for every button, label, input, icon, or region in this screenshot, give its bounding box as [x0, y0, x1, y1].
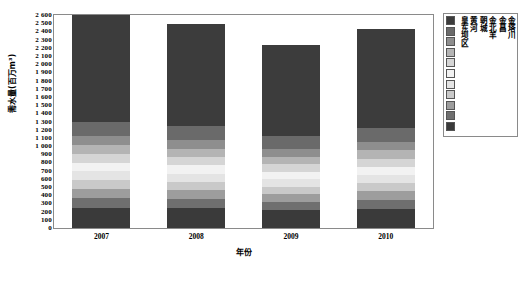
y-axis-tick: 2 300 — [35, 36, 52, 43]
bar-segment[interactable] — [262, 164, 320, 171]
legend-swatch — [446, 58, 455, 67]
y-axis-title: 需水量(百万m³) — [6, 45, 17, 123]
y-axis-tick: 1 600 — [35, 93, 52, 100]
x-axis-tick-labels: 2007200820092010 — [54, 232, 433, 244]
y-axis-tick: 1 700 — [35, 85, 52, 92]
bar-segment[interactable] — [262, 136, 320, 148]
bar-segment[interactable] — [72, 122, 130, 136]
bar-segment[interactable] — [167, 199, 225, 208]
legend-label-column: 其他合计杂木西营泉山清河金塔川金昌金北羊朝城黄河皇东坝区 — [459, 16, 516, 135]
bar-segment[interactable] — [167, 190, 225, 199]
y-axis-tick: 1 500 — [35, 102, 52, 109]
bar-segment[interactable] — [72, 198, 130, 208]
bar-segment[interactable] — [357, 183, 415, 191]
y-axis-tick: 800 — [41, 159, 52, 166]
legend-swatch — [446, 16, 455, 25]
bar-segment[interactable] — [262, 194, 320, 202]
y-axis-tick: 2 400 — [35, 28, 52, 35]
x-axis-tick: 2007 — [94, 232, 109, 241]
bar-segment[interactable] — [357, 191, 415, 199]
y-axis-tick: 2 000 — [35, 61, 52, 68]
y-axis-tick: 2 600 — [35, 12, 52, 19]
bar-segment[interactable] — [72, 163, 130, 172]
bar-segment[interactable] — [167, 174, 225, 183]
bar-segment[interactable] — [167, 24, 225, 126]
stacked-bar[interactable] — [72, 15, 130, 228]
bar-segment[interactable] — [357, 142, 415, 150]
bar-segment[interactable] — [262, 210, 320, 228]
bar-segment[interactable] — [357, 175, 415, 183]
bar-segment[interactable] — [72, 145, 130, 154]
y-axis-tick: 700 — [41, 167, 52, 174]
y-axis-tick: 900 — [41, 151, 52, 158]
legend-swatch — [446, 90, 455, 99]
y-axis-tick: 2 100 — [35, 52, 52, 59]
legend-swatch — [446, 27, 455, 36]
bar-segment[interactable] — [72, 189, 130, 198]
bar-segment[interactable] — [167, 149, 225, 158]
bar-segment[interactable] — [262, 45, 320, 137]
y-axis-tick: 0 — [48, 225, 52, 232]
bar-segment[interactable] — [167, 165, 225, 173]
y-axis-tick: 1 000 — [35, 143, 52, 150]
bar-segment[interactable] — [72, 208, 130, 228]
bar-segment[interactable] — [357, 150, 415, 158]
bar-segment[interactable] — [262, 149, 320, 157]
bar-segment[interactable] — [357, 209, 415, 228]
legend-swatch — [446, 37, 455, 46]
legend-label: 朝城 — [478, 16, 487, 135]
legend-swatch — [446, 48, 455, 57]
y-axis-tick: 2 200 — [35, 44, 52, 51]
bar-segment[interactable] — [72, 154, 130, 163]
y-axis-tick-labels: 01002003004005006007008009001 0001 1001 … — [16, 15, 52, 228]
chart-legend: 其他合计杂木西营泉山清河金塔川金昌金北羊朝城黄河皇东坝区 — [443, 13, 518, 137]
bar-segment[interactable] — [167, 126, 225, 140]
bar-segment[interactable] — [72, 15, 130, 122]
bar-segment[interactable] — [357, 200, 415, 209]
x-axis-title: 年份 — [54, 246, 433, 257]
y-axis-tick: 1 300 — [35, 118, 52, 125]
bar-segment[interactable] — [262, 202, 320, 210]
legend-label: 金昌 — [497, 16, 506, 135]
bar-segment[interactable] — [167, 208, 225, 228]
bar-segment[interactable] — [167, 182, 225, 190]
stacked-bar[interactable] — [357, 29, 415, 228]
y-axis-tick: 2 500 — [35, 20, 52, 27]
plot-area — [54, 15, 433, 228]
legend-swatch — [446, 101, 455, 110]
bar-segment[interactable] — [357, 29, 415, 128]
bar-segment[interactable] — [167, 157, 225, 165]
bar-segment[interactable] — [72, 171, 130, 180]
stacked-bar[interactable] — [262, 45, 320, 228]
bar-segment[interactable] — [262, 179, 320, 187]
legend-label: 黄河 — [468, 16, 477, 135]
bar-segment[interactable] — [167, 140, 225, 149]
y-axis-tick: 500 — [41, 184, 52, 191]
legend-label: 皇东坝区 — [459, 16, 468, 135]
bar-segment[interactable] — [357, 128, 415, 142]
bar-segment[interactable] — [72, 136, 130, 145]
y-axis-tick: 1 400 — [35, 110, 52, 117]
legend-swatch — [446, 111, 455, 120]
legend-swatch — [446, 69, 455, 78]
y-axis-tick: 600 — [41, 175, 52, 182]
x-axis-tick: 2010 — [378, 232, 393, 241]
y-axis-tick: 100 — [41, 216, 52, 223]
y-axis-tick: 1 200 — [35, 126, 52, 133]
legend-swatch — [446, 80, 455, 89]
legend-label: 金塔川 — [506, 16, 515, 135]
bar-segment[interactable] — [262, 172, 320, 179]
y-axis-tick: 300 — [41, 200, 52, 207]
bar-segment[interactable] — [357, 167, 415, 175]
y-axis-tick: 1 100 — [35, 134, 52, 141]
bar-segment[interactable] — [72, 180, 130, 189]
y-axis-tick: 400 — [41, 192, 52, 199]
stacked-bar[interactable] — [167, 24, 225, 228]
bar-segment[interactable] — [262, 157, 320, 165]
legend-swatch — [446, 122, 455, 131]
legend-label: 清河 — [515, 16, 516, 135]
bar-segment[interactable] — [357, 159, 415, 167]
legend-swatch-column — [446, 16, 458, 135]
bar-segment[interactable] — [262, 187, 320, 194]
x-axis-tick: 2009 — [283, 232, 298, 241]
